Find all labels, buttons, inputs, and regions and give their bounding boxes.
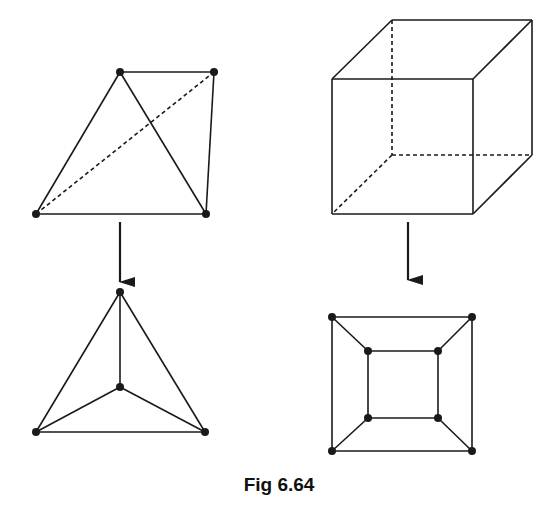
graph-vertex: [434, 414, 442, 422]
tetrahedron-planar-graph: [32, 288, 209, 436]
graph-vertex: [328, 447, 336, 455]
graph-edge: [438, 418, 472, 451]
edge: [120, 72, 206, 214]
edge: [332, 20, 392, 79]
graph-vertex: [201, 428, 209, 436]
graph-edge: [36, 292, 120, 432]
vertex: [116, 68, 124, 76]
figure-caption: Fig 6.64: [0, 474, 558, 496]
tetrahedron-3d: [32, 68, 218, 218]
graph-vertex: [32, 428, 40, 436]
edge: [473, 155, 532, 214]
graph-vertex: [328, 313, 336, 321]
graph-edge: [120, 292, 205, 432]
graph-vertex: [468, 447, 476, 455]
edge: [36, 72, 120, 214]
cube-planar-graph: [328, 313, 476, 455]
cube-3d: [332, 20, 532, 214]
graph-vertex: [434, 347, 442, 355]
edge: [206, 72, 214, 214]
graph-edge: [332, 317, 368, 351]
graph-edge: [332, 418, 368, 451]
graph-edge: [438, 317, 472, 351]
graph-vertex: [468, 313, 476, 321]
graph-vertex: [116, 288, 124, 296]
hidden-edge: [332, 155, 392, 214]
vertex: [202, 210, 210, 218]
vertex: [32, 210, 40, 218]
edge: [473, 20, 532, 79]
graph-vertex: [116, 383, 124, 391]
hidden-edge: [36, 72, 214, 214]
graph-vertex: [364, 414, 372, 422]
graph-vertex: [364, 347, 372, 355]
vertex: [210, 68, 218, 76]
figure-diagram: [0, 0, 558, 513]
